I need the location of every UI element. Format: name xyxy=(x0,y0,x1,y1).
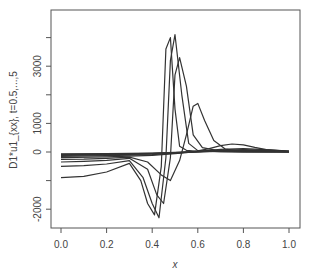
x-tick-label: 0.2 xyxy=(100,239,114,250)
y-tick-label: 1000 xyxy=(32,112,43,135)
y-axis: -2000010003000 xyxy=(32,38,51,222)
series-line xyxy=(61,103,289,180)
x-tick-label: 0.4 xyxy=(145,239,159,250)
y-axis-label: D1*u1_{xx}, t=0.5,...,5 xyxy=(8,71,19,169)
x-axis-label: x xyxy=(172,259,179,270)
x-tick-label: 0.0 xyxy=(54,239,68,250)
y-tick-label: 3000 xyxy=(32,55,43,78)
line-chart: 0.00.20.40.60.81.0 -2000010003000 x D1*u… xyxy=(0,0,309,277)
x-tick-label: 1.0 xyxy=(282,239,296,250)
x-tick-label: 0.6 xyxy=(191,239,205,250)
series-line xyxy=(61,58,289,204)
x-axis: 0.00.20.40.60.81.0 xyxy=(54,228,296,250)
series-line xyxy=(61,38,289,215)
y-tick-label: -2000 xyxy=(32,196,43,222)
y-tick-label: 0 xyxy=(32,149,43,155)
series-line xyxy=(61,35,289,218)
x-tick-label: 0.8 xyxy=(236,239,250,250)
series-lines xyxy=(61,35,289,218)
